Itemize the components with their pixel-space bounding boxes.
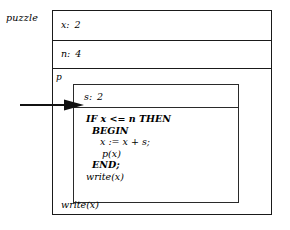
code-line-if: IF x <= n THEN [86, 113, 238, 125]
code-block: IF x <= n THEN BEGIN x := x + s; p(x) EN… [74, 108, 238, 183]
slot-row-s: s: 2 [74, 85, 238, 108]
slot-s-value: 2 [95, 91, 103, 102]
slot-n-name: n: [61, 48, 70, 59]
slot-x-name: x: [61, 19, 70, 30]
slot-row-p: s: 2 IF x <= n THEN BEGIN x := x + s; p(… [53, 69, 271, 214]
slot-s-name: s: [84, 91, 92, 102]
slot-x: x: 2 [61, 19, 81, 30]
inner-frame-p: s: 2 IF x <= n THEN BEGIN x := x + s; p(… [73, 84, 239, 203]
code-line-assignment: x := x + s; [100, 136, 238, 148]
outer-frame-label: puzzle [6, 12, 38, 23]
slot-x-value: 2 [73, 19, 81, 30]
code-line-begin: BEGIN [92, 125, 238, 137]
code-line-write: write(x) [86, 171, 238, 183]
outer-frame-puzzle: x: 2 n: 4 s: 2 IF x <= [52, 10, 272, 215]
slot-row-x: x: 2 [53, 11, 271, 41]
outer-frame-tail-statement: write(x) [61, 199, 99, 210]
slot-n-value: 4 [73, 48, 81, 59]
slot-row-n: n: 4 [53, 41, 271, 69]
slot-n: n: 4 [61, 48, 81, 59]
diagram-canvas: puzzle x: 2 n: 4 s: 2 [0, 0, 290, 230]
code-line-call: p(x) [102, 148, 238, 160]
execution-pointer-arrow-icon [20, 99, 84, 111]
inner-frame-label: p [56, 72, 62, 82]
code-line-end: END; [92, 159, 238, 171]
slot-s: s: 2 [84, 91, 103, 102]
